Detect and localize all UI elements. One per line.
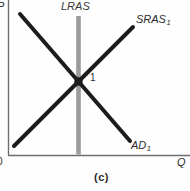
sras-curve-label: SRAS1	[136, 14, 170, 25]
origin-label: 0	[0, 157, 3, 167]
quantity-axis-label: Q	[177, 157, 186, 168]
adas-diagram-panel-c: P Q 0 LRAS SRAS1 AD1 1 (c)	[0, 0, 190, 191]
sras-label-text: SRAS	[136, 13, 166, 25]
lras-curve-label: LRAS	[61, 1, 90, 12]
diagram-canvas	[0, 0, 190, 191]
ad-curve-label: AD1	[131, 140, 150, 151]
equilibrium-point-label: 1	[90, 73, 96, 83]
ad-label-text: AD	[131, 139, 146, 151]
equilibrium-point-dot	[74, 77, 82, 85]
ad-label-subscript: 1	[147, 144, 151, 153]
sras-curve-line	[14, 27, 133, 146]
panel-caption: (c)	[94, 172, 109, 183]
price-axis-label: P	[0, 1, 4, 12]
sras-label-subscript: 1	[166, 18, 170, 27]
